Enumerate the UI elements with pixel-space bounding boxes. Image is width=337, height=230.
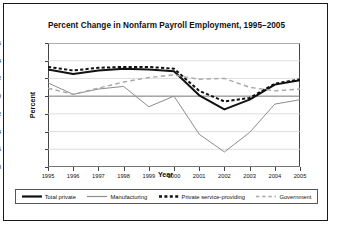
y-tick-label: -8: [0, 164, 1, 170]
y-tick-label: 4: [0, 58, 1, 64]
legend-item[interactable]: Total private: [22, 193, 76, 200]
y-tick-label: 6: [0, 40, 1, 46]
y-tick-mark: [45, 78, 49, 79]
legend-label: Government: [279, 194, 311, 200]
y-tick-mark: [45, 61, 49, 62]
y-tick-mark: [45, 132, 49, 133]
legend-swatch-icon: [87, 193, 107, 200]
x-axis-label: Year: [4, 170, 327, 179]
plot-wrapper: Percent 6420-2-4-6-8 1995199619971998199…: [48, 43, 300, 167]
chart-title: Percent Change in Nonfarm Payroll Employ…: [4, 21, 329, 30]
y-tick-mark: [45, 114, 49, 115]
y-tick-label: 2: [0, 75, 1, 81]
legend-swatch-icon: [22, 193, 42, 200]
legend-label: Manufacturing: [110, 194, 147, 200]
legend-label: Total private: [45, 194, 76, 200]
y-tick-mark: [45, 43, 49, 44]
y-tick-label: -2: [0, 111, 1, 117]
legend-swatch-icon: [256, 193, 276, 200]
legend-label: Private service-providing: [182, 194, 245, 200]
y-tick-mark: [45, 96, 49, 97]
y-axis-label: Percent: [28, 92, 37, 118]
y-tick-mark: [45, 149, 49, 150]
legend-swatch-icon: [159, 193, 179, 200]
y-tick-label: 0: [0, 93, 1, 99]
legend-item[interactable]: Private service-providing: [159, 193, 245, 200]
y-tick-label: -6: [0, 146, 1, 152]
figure-panel: Percent Change in Nonfarm Payroll Employ…: [3, 3, 328, 221]
series-layer: [48, 43, 300, 167]
chart-legend: Total privateManufacturingPrivate servic…: [15, 189, 318, 204]
y-tick-label: -4: [0, 129, 1, 135]
legend-item[interactable]: Government: [256, 193, 311, 200]
legend-item[interactable]: Manufacturing: [87, 193, 147, 200]
